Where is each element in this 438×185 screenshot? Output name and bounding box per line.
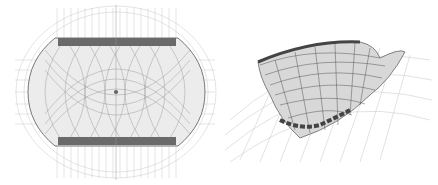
stadium-perspective-view: [220, 0, 438, 185]
stadium-plan-view: [0, 0, 230, 185]
perspective-drawing: [220, 0, 438, 185]
plan-drawing: [0, 0, 230, 185]
